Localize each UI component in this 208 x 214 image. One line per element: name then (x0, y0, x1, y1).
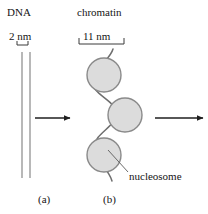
chromatin-scale-label: 11 nm (83, 30, 110, 42)
dna-label: DNA (7, 6, 31, 18)
nucleosome-circle-3 (87, 138, 121, 172)
panel-b-caption: (b) (103, 193, 116, 205)
nucleosome-label: nucleosome (129, 170, 182, 182)
nucleosome-circle-2 (108, 98, 142, 132)
dna-scale-label: 2 nm (9, 30, 31, 42)
chromatin-fiber (87, 49, 142, 181)
nucleosome-circle-1 (87, 58, 121, 92)
chromatin-label: chromatin (77, 6, 122, 18)
panel-a-caption: (a) (38, 193, 50, 205)
chromatin-figure: DNA 2 nm chromatin 11 nm nucleosome (a) … (0, 0, 208, 214)
dna-duplex (22, 52, 30, 178)
